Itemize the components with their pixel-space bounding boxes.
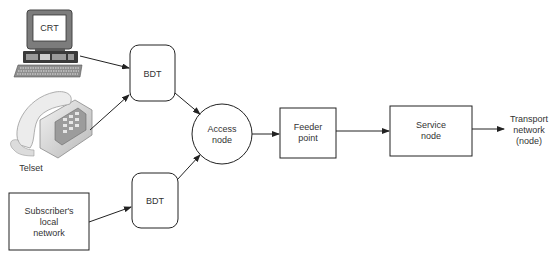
computer-terminal-icon [14, 10, 82, 77]
access-node-label-line2: node [212, 135, 232, 145]
arrow-telset-to-bdt [90, 95, 129, 130]
service-node-label-line1: Service [416, 120, 446, 130]
arrow-bdt-bottom-to-access [177, 155, 200, 180]
access-network-diagram: CRT Telset Subscriber's local network BD… [0, 0, 555, 260]
bdt-bottom-label: BDT [146, 196, 165, 206]
arrow-subscriber-to-bdt [89, 207, 131, 222]
service-node-label-line2: node [421, 131, 441, 141]
subscriber-label-line2: local [40, 217, 59, 227]
transport-label-line2: network [513, 125, 545, 135]
telephone-icon [11, 92, 92, 158]
transport-label-line3: (node) [516, 136, 542, 146]
bdt-top-label: BDT [144, 69, 163, 79]
transport-label-line1: Transport [510, 114, 549, 124]
subscriber-label-line1: Subscriber's [24, 206, 74, 216]
feeder-point-label-line2: point [298, 133, 318, 143]
arrow-crt-to-bdt [80, 56, 129, 68]
feeder-point-label-line1: Feeder [294, 122, 323, 132]
crt-label: CRT [40, 23, 59, 33]
access-node-label-line1: Access [207, 124, 237, 134]
subscriber-label-line3: network [33, 228, 65, 238]
arrow-bdt-top-to-access [175, 93, 200, 114]
telset-label: Telset [19, 163, 43, 173]
access-node-circle [192, 104, 252, 164]
